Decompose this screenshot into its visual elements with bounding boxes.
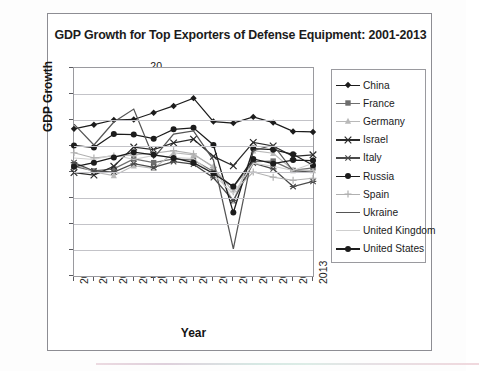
legend-label: Spain	[363, 189, 389, 200]
plot-area	[73, 67, 314, 277]
legend-item-israel[interactable]: Israel	[336, 131, 425, 149]
gridline	[74, 250, 313, 251]
legend-marker-icon	[336, 115, 360, 127]
legend-label: Israel	[363, 134, 388, 145]
legend-item-ukraine[interactable]: Ukraine	[336, 203, 425, 221]
legend-label: Germany	[363, 116, 405, 127]
chart-frame: GDP Growth for Top Exporters of Defense …	[47, 13, 432, 351]
x-axis-title: Year	[73, 326, 314, 340]
legend-item-united-states[interactable]: United States	[336, 240, 425, 258]
legend-label: Ukraine	[363, 207, 398, 218]
legend-item-germany[interactable]: Germany	[336, 112, 425, 130]
legend-marker-icon	[336, 206, 360, 218]
legend-label: China	[363, 80, 390, 91]
legend-marker-icon	[336, 225, 360, 237]
gridline	[74, 172, 313, 173]
legend-item-italy[interactable]: Italy	[336, 149, 425, 167]
y-axis-title: GDP Growth	[41, 61, 55, 132]
legend-marker-icon	[336, 188, 360, 200]
chart-title: GDP Growth for Top Exporters of Defense …	[48, 28, 433, 42]
legend-item-france[interactable]: France	[336, 94, 425, 112]
scan-color-fringe	[96, 363, 479, 365]
legend-label: France	[363, 98, 395, 109]
legend-marker-icon	[336, 243, 360, 255]
gridline	[74, 146, 313, 147]
legend-label: Italy	[363, 152, 382, 163]
legend-marker-icon	[336, 79, 360, 91]
legend-marker-icon	[336, 134, 360, 146]
legend-label: Russia	[363, 171, 394, 182]
gridline	[74, 94, 313, 95]
legend-item-united-kingdom[interactable]: United Kingdom	[336, 222, 425, 240]
chart-legend: ChinaFranceGermanyIsraelItalyRussiaSpain…	[331, 69, 426, 263]
gridline	[74, 120, 313, 121]
gridline	[74, 224, 313, 225]
legend-item-russia[interactable]: Russia	[336, 167, 425, 185]
legend-item-china[interactable]: China	[336, 76, 425, 94]
legend-label: United States	[363, 243, 424, 254]
legend-label: United Kingdom	[363, 225, 436, 236]
legend-item-spain[interactable]: Spain	[336, 185, 425, 203]
legend-marker-icon	[336, 152, 360, 164]
legend-marker-icon	[336, 97, 360, 109]
gridline	[74, 198, 313, 199]
x-axis-tick-label: 2013	[317, 261, 329, 284]
legend-marker-icon	[336, 170, 360, 182]
